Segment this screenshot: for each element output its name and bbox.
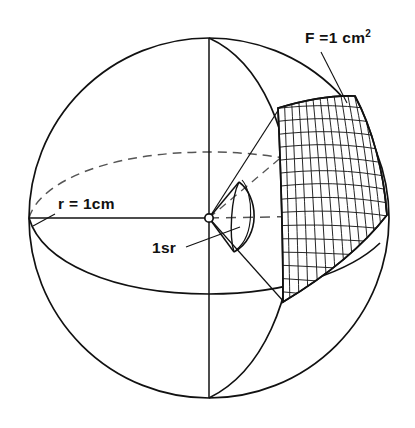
ray-to-patch-bottom — [209, 218, 284, 302]
radius-label: r = 1cm — [58, 195, 115, 212]
steradian-diagram-svg: F =1 cm2 r = 1cm 1sr — [0, 0, 415, 428]
solid-angle-label: 1sr — [152, 239, 176, 256]
steradian-figure: F =1 cm2 r = 1cm 1sr — [0, 0, 415, 428]
cone-lower-edge — [209, 218, 234, 252]
sphere-center-dot — [205, 214, 213, 222]
cone-cap-inner — [236, 180, 251, 250]
area-label-leader — [321, 52, 347, 103]
cone-upper-edge — [209, 182, 239, 218]
area-label: F =1 cm2 — [305, 28, 371, 46]
area-label-superscript: 2 — [365, 28, 371, 39]
spherical-patch — [272, 89, 406, 325]
radius-label-leader — [33, 214, 55, 226]
area-label-text: F =1 cm — [305, 29, 365, 46]
ray-to-patch-top — [209, 109, 279, 218]
